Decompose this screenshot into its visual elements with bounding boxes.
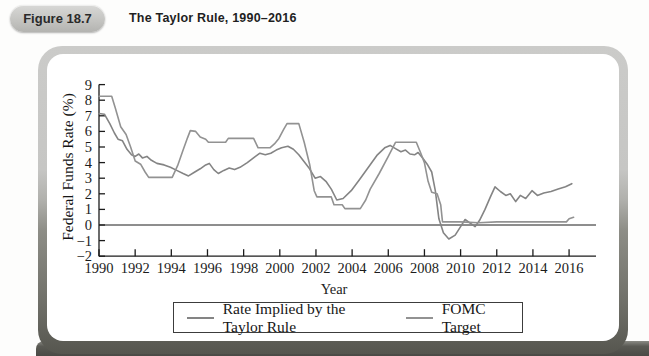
legend-item-taylor-rule: Rate Implied by the Taylor Rule (187, 300, 379, 336)
taylor-rule-line (99, 114, 572, 240)
figure-badge-label: Figure 18.7 (23, 11, 92, 26)
y-tick-label: 2 (85, 186, 92, 202)
figure-panel-frame: 9876543210−1−219901992199419961998200020… (38, 46, 628, 354)
x-tick-label: 1996 (193, 260, 222, 276)
figure-title: The Taylor Rule, 1990–2016 (129, 11, 297, 25)
y-tick-label: 1 (85, 201, 92, 217)
taylor-rule-line-swatch-icon (187, 317, 214, 319)
x-tick-label: 2016 (555, 260, 584, 276)
chart-svg: 9876543210−1−219901992199419961998200020… (47, 54, 619, 299)
legend: Rate Implied by the Taylor Rule FOMC Tar… (173, 302, 523, 333)
x-tick-label: 2000 (265, 260, 294, 276)
figure-badge: Figure 18.7 (10, 5, 105, 32)
x-tick-label: 1990 (85, 260, 114, 276)
x-tick-label: 1994 (157, 260, 187, 276)
y-tick-label: 7 (85, 108, 92, 124)
fomc-target-line (99, 96, 574, 222)
y-tick-label: 0 (85, 217, 92, 233)
legend-item-fomc-target: FOMC Target (406, 300, 509, 336)
x-tick-label: 1992 (121, 260, 150, 276)
legend-label-taylor-rule: Rate Implied by the Taylor Rule (223, 300, 380, 336)
y-tick-label: −1 (77, 233, 92, 249)
chart-panel: 9876543210−1−219901992199419961998200020… (47, 54, 619, 341)
x-axis-title: Year (321, 281, 348, 297)
y-tick-label: 9 (85, 77, 92, 93)
fomc-target-line-swatch-icon (406, 317, 432, 319)
x-tick-label: 2004 (338, 260, 368, 276)
x-tick-label: 2006 (374, 260, 403, 276)
x-tick-label: 2012 (482, 260, 511, 276)
x-tick-label: 2014 (518, 260, 548, 276)
y-tick-label: 5 (85, 139, 92, 155)
x-tick-label: 2002 (301, 260, 330, 276)
textbook-figure-page: Figure 18.7 The Taylor Rule, 1990–2016 9… (0, 0, 649, 356)
x-tick-label: 2008 (410, 260, 439, 276)
y-axis-title: Federal Funds Rate (%) (59, 93, 77, 241)
x-tick-label: 1998 (229, 260, 258, 276)
x-tick-label: 2010 (446, 260, 475, 276)
y-tick-label: 3 (85, 170, 92, 186)
y-tick-label: 4 (85, 155, 93, 171)
legend-label-fomc-target: FOMC Target (442, 300, 509, 336)
y-tick-label: 8 (85, 92, 92, 108)
y-tick-label: 6 (85, 123, 92, 139)
